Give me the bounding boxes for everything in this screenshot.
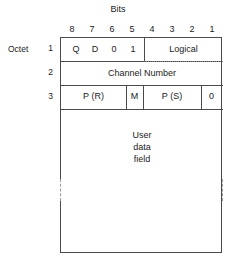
octet-label: Octet	[8, 44, 28, 54]
field-user-data: User data field	[61, 129, 223, 165]
bit-number-ruler: 8 7 6 5 4 3 2 1	[62, 23, 222, 35]
bit-number-1: 1	[202, 23, 222, 35]
user-data-line-3: field	[61, 153, 223, 165]
field-d: D	[88, 44, 102, 55]
field-bit-1: 1	[126, 44, 140, 55]
bit-number-7: 7	[82, 23, 102, 35]
field-logical: Logical	[144, 44, 223, 55]
field-channel-number: Channel Number	[61, 68, 223, 79]
field-break-right	[222, 179, 223, 201]
octet-row-number-1: 1	[45, 43, 56, 53]
row-separator-2	[61, 85, 223, 86]
user-data-line-2: data	[61, 141, 223, 153]
field-zero: 0	[201, 91, 222, 102]
row-separator-3	[61, 109, 223, 110]
bit-number-4: 4	[142, 23, 162, 35]
packet-frame: Q D 0 1 Logical Channel Number P (R) M P…	[60, 37, 222, 253]
bit-number-8: 8	[62, 23, 82, 35]
row-separator-1-dotted	[144, 61, 223, 62]
bit-number-2: 2	[182, 23, 202, 35]
bits-title: Bits	[110, 4, 125, 15]
user-data-line-1: User	[61, 129, 223, 141]
field-break-left	[60, 179, 61, 201]
bit-number-3: 3	[162, 23, 182, 35]
octet-row-number-2: 2	[45, 67, 56, 77]
field-q: Q	[69, 44, 83, 55]
field-p-r: P (R)	[61, 91, 126, 102]
field-m: M	[126, 91, 143, 102]
field-bit-0: 0	[107, 44, 121, 55]
bit-number-6: 6	[102, 23, 122, 35]
bit-number-5: 5	[122, 23, 142, 35]
packet-format-diagram: Bits 8 7 6 5 4 3 2 1 Octet 1 2 3 Q D 0 1…	[0, 0, 239, 266]
octet-row-number-3: 3	[45, 91, 56, 101]
field-p-s: P (S)	[143, 91, 201, 102]
